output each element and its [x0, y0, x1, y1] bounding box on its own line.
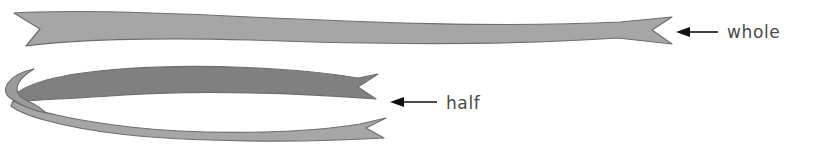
half-arrow-head-icon: [390, 97, 404, 107]
annotation-half: half: [390, 93, 481, 113]
annotation-whole: whole: [676, 22, 780, 42]
whole-ribbon-group: [14, 12, 672, 46]
whole-arrow-head-icon: [676, 27, 690, 37]
half-label: half: [446, 93, 481, 113]
half-ribbon-group: [6, 66, 386, 141]
whole-label: whole: [727, 22, 780, 42]
half-ribbon-upper-strip: [12, 66, 378, 101]
half-ribbon-lower-strip: [11, 101, 386, 141]
whole-ribbon: [14, 12, 672, 46]
ribbon-fraction-figure: Ribbon fraction illustration: whole ribb…: [0, 0, 814, 146]
